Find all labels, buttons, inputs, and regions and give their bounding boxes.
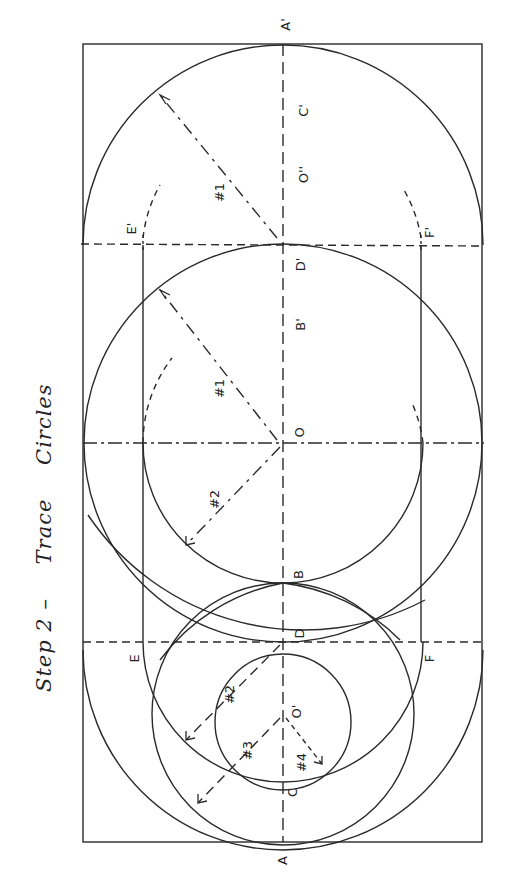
radius-1-top-line bbox=[160, 95, 277, 238]
label-d: D bbox=[293, 628, 306, 638]
arc-o-inner-upper-dashed bbox=[143, 358, 172, 443]
label-c: C bbox=[286, 788, 299, 797]
label-c-prime: C' bbox=[297, 104, 310, 117]
arc-b-lower bbox=[88, 515, 425, 630]
label-b: B bbox=[292, 570, 305, 579]
label-radius-4: #4 bbox=[295, 753, 308, 772]
label-d-prime: D' bbox=[294, 258, 307, 272]
radius-3-line bbox=[198, 718, 280, 803]
label-radius-1-mid: #1 bbox=[213, 379, 226, 398]
label-radius-2-mid: #2 bbox=[208, 490, 221, 509]
label-a: A bbox=[276, 856, 289, 865]
arrowheads bbox=[160, 95, 322, 803]
label-o: O bbox=[293, 427, 306, 437]
radius-1-mid-line bbox=[160, 290, 277, 440]
title-word-trace: Trace bbox=[32, 499, 56, 565]
arrowhead-icon bbox=[160, 95, 170, 104]
label-f: F bbox=[423, 655, 436, 662]
label-b-prime: B' bbox=[294, 318, 307, 331]
label-radius-3: #3 bbox=[241, 741, 254, 760]
arc-top-inner-left-dashed bbox=[143, 185, 160, 238]
label-f-prime: F' bbox=[423, 227, 436, 238]
title-word-circles: Circles bbox=[32, 383, 56, 465]
drawing-title: Step 2 – Trace Circles bbox=[32, 357, 56, 692]
arrowhead-icon bbox=[160, 290, 170, 299]
title-step: Step 2 – bbox=[32, 598, 56, 692]
label-o-prime: O' bbox=[290, 705, 303, 719]
label-a-prime: A' bbox=[279, 18, 292, 30]
label-radius-1-top: #1 bbox=[213, 183, 226, 202]
label-e-prime: E' bbox=[125, 223, 138, 235]
label-e: E bbox=[128, 654, 141, 662]
radius-2-mid-line bbox=[186, 447, 280, 545]
arc-top-inner-right-dashed bbox=[404, 190, 421, 238]
arrowhead-icon bbox=[186, 536, 195, 545]
label-radius-2-low: #2 bbox=[223, 685, 236, 704]
label-o-double-prime: O'' bbox=[297, 166, 310, 183]
